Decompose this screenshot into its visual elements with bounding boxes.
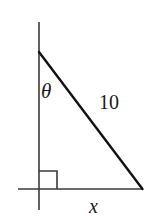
base-length-label: x xyxy=(89,196,98,216)
hypotenuse-length-label: 10 xyxy=(99,92,119,112)
figure-background xyxy=(0,0,148,216)
right-triangle-figure xyxy=(0,0,148,216)
angle-label-theta: θ xyxy=(41,81,51,102)
